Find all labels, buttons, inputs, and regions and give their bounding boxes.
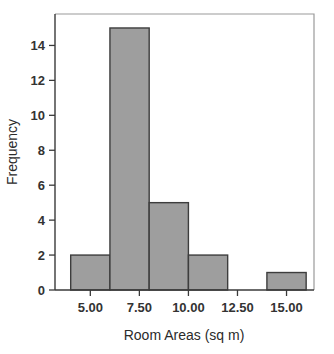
x-tick-label: 10.00 bbox=[172, 300, 205, 315]
x-axis-ticks: 5.007.5010.0012.5015.00 bbox=[78, 290, 303, 315]
x-tick-label: 15.00 bbox=[270, 300, 303, 315]
histogram-bar bbox=[267, 273, 306, 290]
y-tick-label: 4 bbox=[38, 213, 46, 228]
y-tick-label: 2 bbox=[38, 248, 45, 263]
histogram-chart: 5.007.5010.0012.5015.00 02468101214 Room… bbox=[0, 0, 334, 354]
y-tick-label: 8 bbox=[38, 143, 45, 158]
x-tick-label: 12.50 bbox=[221, 300, 254, 315]
x-axis-title: Room Areas (sq m) bbox=[124, 327, 245, 343]
histogram-bar bbox=[71, 255, 110, 290]
histogram-bar bbox=[188, 255, 227, 290]
histogram-bar bbox=[149, 203, 188, 290]
y-axis-ticks: 02468101214 bbox=[31, 38, 55, 298]
y-tick-label: 12 bbox=[31, 73, 45, 88]
plot-area: 5.007.5010.0012.5015.00 02468101214 Room… bbox=[0, 0, 334, 354]
x-tick-label: 5.00 bbox=[78, 300, 103, 315]
x-tick-label: 7.50 bbox=[127, 300, 152, 315]
y-tick-label: 10 bbox=[31, 108, 45, 123]
y-tick-label: 14 bbox=[31, 38, 46, 53]
y-tick-label: 6 bbox=[38, 178, 45, 193]
y-axis-title: Frequency bbox=[4, 119, 20, 185]
histogram-bar bbox=[110, 28, 149, 290]
y-tick-label: 0 bbox=[38, 283, 45, 298]
